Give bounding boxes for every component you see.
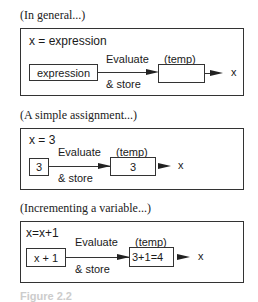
panel-3-store-label: & store	[75, 263, 110, 275]
panel-3-source-box: x + 1	[26, 248, 66, 267]
panel-3-caption: (Incrementing a variable...)	[20, 201, 151, 216]
panel-1-evaluate-label: Evaluate	[106, 53, 149, 65]
panel-3-target-arrowhead-icon	[177, 254, 190, 260]
panel-1-store-label: & store	[106, 78, 141, 90]
panel-2-source-box: 3	[29, 158, 49, 176]
panel-3-target: x	[198, 250, 204, 262]
panel-2-caption: (A simple assignment...)	[20, 108, 137, 123]
panel-2-target-arrowhead-icon	[158, 163, 171, 169]
panel-2-evaluate-label: Evaluate	[58, 146, 101, 158]
panel-1-source-box: expression	[29, 64, 98, 81]
panel-3-evaluate-label: Evaluate	[75, 236, 118, 248]
panel-1-target-arrowhead-icon	[210, 70, 223, 76]
panel-1-general: x = expression expression Evaluate & sto…	[20, 28, 244, 96]
panel-2-simple-assignment: x = 3 3 Evaluate & store (temp) 3 x	[20, 128, 244, 190]
panel-1-statement: x = expression	[29, 34, 107, 48]
panel-2-store-label: & store	[58, 172, 93, 184]
panel-3-incrementing: x=x+1 x + 1 Evaluate & store (temp) 3+1=…	[20, 221, 244, 283]
panel-2-statement: x = 3	[29, 133, 55, 147]
panel-1-caption: (In general...)	[20, 8, 85, 23]
panel-2-target: x	[178, 159, 184, 171]
panel-1-target: x	[231, 66, 237, 78]
figure-caption: Figure 2.2	[20, 290, 72, 302]
panel-2-temp-box: 3	[110, 157, 156, 176]
panel-1-temp-box	[158, 64, 205, 83]
panel-3-statement: x=x+1	[26, 226, 59, 240]
panel-3-temp-box: 3+1=4	[129, 247, 174, 267]
panel-1-arrow-line	[98, 72, 150, 73]
